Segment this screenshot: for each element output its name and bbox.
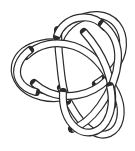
knot-diagram-figure: Trefoil knot diagram <box>0 0 135 151</box>
knot-svg <box>0 0 135 151</box>
